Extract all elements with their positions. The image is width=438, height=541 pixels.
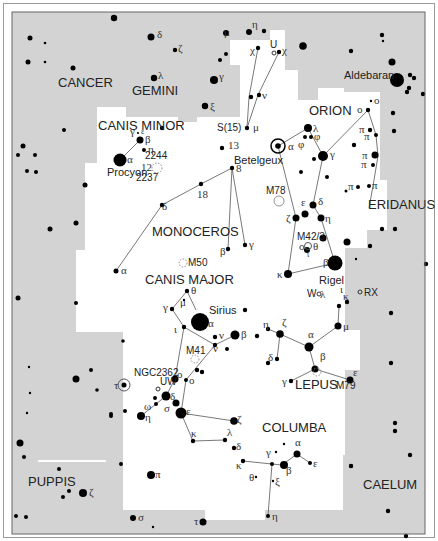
label-gemini: GEMINI bbox=[132, 83, 178, 98]
label-uw: UW bbox=[160, 376, 177, 387]
svg-text:γ: γ bbox=[329, 148, 335, 160]
label-sirius: Sirius bbox=[209, 304, 237, 316]
svg-text:τ: τ bbox=[114, 379, 119, 391]
label-orion: ORION bbox=[309, 103, 352, 118]
svg-text:λ: λ bbox=[158, 69, 164, 81]
svg-text:γ: γ bbox=[265, 446, 271, 458]
svg-text:κ: κ bbox=[277, 268, 283, 280]
label-s15: S(15) bbox=[217, 122, 241, 133]
svg-text:σ: σ bbox=[138, 511, 144, 523]
svg-text:β: β bbox=[241, 328, 247, 340]
svg-text:η: η bbox=[263, 318, 269, 330]
svg-text:ε: ε bbox=[301, 196, 306, 208]
svg-text:χ: χ bbox=[281, 44, 287, 56]
svg-text:γ: γ bbox=[248, 238, 254, 250]
label-w: W bbox=[307, 288, 317, 299]
svg-text:η: η bbox=[252, 18, 258, 30]
label-13: 13 bbox=[228, 139, 240, 151]
svg-text:λ: λ bbox=[320, 288, 326, 300]
svg-text:ι: ι bbox=[174, 323, 177, 335]
label-canis-major: CANIS MAJOR bbox=[145, 272, 234, 287]
svg-text:ν: ν bbox=[213, 342, 218, 354]
svg-text:ζ: ζ bbox=[286, 212, 291, 225]
svg-text:η: η bbox=[145, 411, 151, 423]
svg-text:ε: ε bbox=[353, 366, 358, 378]
svg-text:κ: κ bbox=[236, 459, 242, 471]
svg-text:ν: ν bbox=[219, 329, 224, 341]
svg-text:π: π bbox=[155, 468, 161, 480]
svg-text:γ: γ bbox=[218, 70, 224, 82]
svg-text:μ: μ bbox=[180, 296, 186, 308]
svg-text:ο: ο bbox=[299, 240, 305, 252]
svg-text:π: π bbox=[364, 130, 370, 142]
svg-text:τ: τ bbox=[194, 515, 199, 527]
svg-text:δ: δ bbox=[162, 200, 167, 212]
svg-text:κ: κ bbox=[343, 290, 349, 302]
label-u: U bbox=[270, 39, 277, 50]
star-chart: CANCER GEMINI CANIS MINOR ORION MONOCERO… bbox=[0, 0, 438, 541]
svg-text:δ: δ bbox=[170, 390, 175, 402]
label-lepus: LEPUS bbox=[295, 377, 338, 392]
svg-text:θ: θ bbox=[191, 284, 196, 296]
label-columba: COLUMBA bbox=[262, 420, 327, 435]
svg-text:δ: δ bbox=[268, 351, 273, 363]
svg-text:β: β bbox=[320, 350, 326, 362]
label-puppis: PUPPIS bbox=[28, 474, 76, 489]
label-18: 18 bbox=[197, 188, 209, 200]
svg-text:μ: μ bbox=[224, 26, 230, 38]
label-12: 12 bbox=[141, 161, 152, 173]
svg-text:λ: λ bbox=[227, 426, 233, 438]
svg-text:σ: σ bbox=[164, 402, 170, 414]
label-caelum: CAELUM bbox=[363, 477, 417, 492]
svg-text:χ: χ bbox=[249, 44, 255, 56]
svg-text:γ: γ bbox=[281, 375, 287, 387]
svg-text:β: β bbox=[220, 245, 226, 257]
svg-text:ξ: ξ bbox=[275, 475, 280, 488]
svg-text:π: π bbox=[361, 158, 367, 170]
svg-text:α: α bbox=[127, 153, 133, 165]
svg-text:α: α bbox=[308, 328, 314, 340]
svg-text:δ: δ bbox=[157, 28, 162, 40]
svg-text:ο: ο bbox=[177, 368, 183, 380]
svg-text:ζ: ζ bbox=[89, 486, 94, 499]
svg-text:κ: κ bbox=[191, 427, 197, 439]
svg-text:δ: δ bbox=[236, 440, 241, 452]
label-m41: M41 bbox=[186, 345, 206, 356]
svg-text:μ: μ bbox=[253, 121, 259, 133]
label-rx: RX bbox=[364, 287, 378, 298]
svg-text:ζ: ζ bbox=[178, 42, 183, 55]
svg-text:α: α bbox=[295, 436, 301, 448]
svg-text:γ: γ bbox=[162, 301, 168, 313]
label-cancer: CANCER bbox=[58, 75, 113, 90]
svg-text:α: α bbox=[208, 317, 214, 329]
svg-text:ξ: ξ bbox=[210, 100, 215, 113]
svg-text:α: α bbox=[288, 140, 294, 152]
label-aldebaran: Aldebaran bbox=[344, 69, 394, 81]
svg-text:ο: ο bbox=[357, 103, 363, 115]
svg-text:η: η bbox=[272, 510, 278, 522]
svg-text:φ: φ bbox=[298, 138, 304, 150]
svg-text:γ: γ bbox=[129, 125, 135, 137]
svg-text:η: η bbox=[325, 212, 331, 224]
svg-text:ν: ν bbox=[262, 89, 267, 101]
svg-text:π: π bbox=[348, 180, 354, 192]
svg-text:η: η bbox=[148, 143, 154, 155]
svg-text:ζ: ζ bbox=[282, 316, 287, 329]
label-monoceros: MONOCEROS bbox=[152, 224, 239, 239]
svg-text:ι: ι bbox=[340, 283, 343, 295]
svg-text:β: β bbox=[323, 256, 329, 268]
svg-text:ο: ο bbox=[374, 94, 380, 106]
svg-text:α: α bbox=[121, 264, 127, 276]
svg-text:δ: δ bbox=[318, 195, 323, 207]
svg-text:ο: ο bbox=[189, 374, 195, 386]
svg-text:π: π bbox=[372, 179, 378, 191]
label-m78: M78 bbox=[266, 185, 286, 196]
svg-text:ε: ε bbox=[313, 457, 318, 469]
label-ngc2237: 2237 bbox=[136, 172, 159, 183]
svg-text:φ: φ bbox=[314, 130, 320, 142]
svg-text:θ: θ bbox=[249, 471, 254, 483]
label-m50: M50 bbox=[188, 257, 208, 268]
svg-text:β: β bbox=[286, 464, 292, 476]
svg-text:θ: θ bbox=[313, 240, 318, 252]
svg-text:μ: μ bbox=[343, 320, 349, 332]
